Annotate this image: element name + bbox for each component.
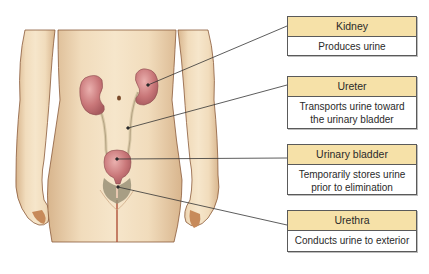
label-ureter-description: Transports urine toward the urinary blad…: [288, 97, 416, 129]
label-urethra-title: Urethra: [288, 211, 416, 231]
label-kidney: Kidney Produces urine: [287, 16, 417, 56]
torso: [48, 30, 183, 242]
label-ureter-line-1: Transports urine toward: [290, 100, 414, 113]
label-kidney-description: Produces urine: [288, 37, 416, 56]
right-arm: [178, 30, 219, 226]
label-urethra: Urethra Conducts urine to exterior: [287, 210, 417, 252]
label-urinary-bladder: Urinary bladder Temporarily stores urine…: [287, 144, 417, 195]
label-ureter-line-2: the urinary bladder: [290, 113, 414, 126]
label-urethra-description: Conducts urine to exterior: [288, 231, 416, 250]
label-bladder-line-1: Temporarily stores urine: [290, 168, 414, 181]
label-bladder-line-2: prior to elimination: [290, 181, 414, 194]
label-ureter: Ureter Transports urine toward the urina…: [287, 76, 417, 129]
label-kidney-title: Kidney: [288, 17, 416, 37]
label-urinary-bladder-title: Urinary bladder: [288, 145, 416, 165]
label-urinary-bladder-description: Temporarily stores urine prior to elimin…: [288, 165, 416, 197]
label-ureter-title: Ureter: [288, 77, 416, 97]
